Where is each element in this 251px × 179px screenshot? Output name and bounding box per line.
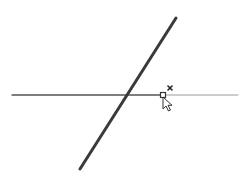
canvas-svg[interactable] bbox=[0, 0, 251, 179]
canvas-background bbox=[0, 0, 251, 179]
